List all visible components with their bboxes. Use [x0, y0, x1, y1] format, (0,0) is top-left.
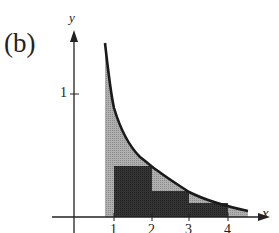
x-axis-label: x: [262, 205, 269, 222]
panel-label: (b): [4, 28, 35, 59]
x-tick-label-3: 3: [185, 222, 192, 233]
x-tick-label-1: 1: [110, 222, 117, 233]
y-axis-label: y: [69, 10, 75, 26]
rectangle-1-2: [114, 166, 152, 217]
y-axis-arrow-icon: [70, 30, 78, 42]
x-tick-label-2: 2: [148, 222, 155, 233]
area-diagram: [0, 0, 279, 233]
y-tick-label-1: 1: [60, 85, 67, 101]
rectangle-2-3: [152, 191, 189, 217]
x-tick-label-4: 4: [224, 222, 231, 233]
